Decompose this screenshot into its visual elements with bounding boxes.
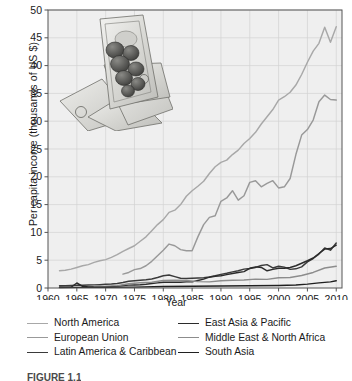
legend-item-south-asia: South Asia	[178, 345, 325, 360]
legend-swatch-latin-america-caribbean	[27, 352, 48, 353]
line-chart: 0510152025303540455019601965197019751980…	[0, 0, 352, 300]
chart-container: Per capita income (thousands of US $) 05…	[0, 0, 352, 310]
svg-text:50: 50	[30, 4, 42, 16]
svg-text:40: 40	[30, 59, 42, 71]
legend-item-middle-east-north-africa: Middle East & North Africa	[178, 331, 325, 346]
x-axis-label: Year	[0, 296, 352, 308]
svg-text:45: 45	[30, 31, 42, 43]
svg-text:25: 25	[30, 143, 42, 155]
svg-text:5: 5	[36, 254, 42, 266]
legend-swatch-north-america	[27, 323, 48, 324]
svg-text:15: 15	[30, 198, 42, 210]
legend-swatch-european-union	[27, 337, 48, 338]
svg-text:30: 30	[30, 115, 42, 127]
svg-text:10: 10	[30, 226, 42, 238]
legend-swatch-south-asia	[178, 352, 199, 353]
legend-label-latin-america-caribbean: Latin America & Caribbean	[54, 347, 177, 357]
chart-legend: North America European Union Latin Ameri…	[0, 316, 352, 360]
legend-item-latin-america-caribbean: Latin America & Caribbean	[27, 345, 177, 360]
svg-text:35: 35	[30, 87, 42, 99]
legend-label-east-asia-pacific: East Asia & Pacific	[205, 318, 291, 328]
legend-item-east-asia-pacific: East Asia & Pacific	[178, 316, 325, 331]
legend-column-right: East Asia & Pacific Middle East & North …	[178, 316, 325, 360]
legend-label-north-america: North America	[54, 318, 119, 328]
legend-swatch-middle-east-north-africa	[178, 337, 199, 338]
legend-label-middle-east-north-africa: Middle East & North Africa	[205, 333, 325, 343]
legend-item-european-union: European Union	[27, 331, 177, 346]
legend-label-european-union: European Union	[54, 333, 128, 343]
figure-root: Per capita income (thousands of US $) 05…	[0, 0, 352, 381]
legend-swatch-east-asia-pacific	[178, 323, 199, 324]
legend-label-south-asia: South Asia	[205, 347, 254, 357]
figure-caption: FIGURE 1.1	[27, 372, 81, 381]
legend-item-north-america: North America	[27, 316, 177, 331]
svg-text:20: 20	[30, 170, 42, 182]
legend-column-left: North America European Union Latin Ameri…	[27, 316, 177, 360]
